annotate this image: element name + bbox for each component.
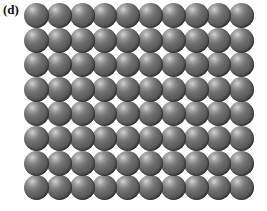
- sphere: [229, 77, 254, 102]
- sphere: [47, 77, 72, 102]
- sphere: [229, 126, 254, 151]
- sphere: [115, 77, 140, 102]
- sphere: [138, 52, 163, 77]
- sphere: [206, 151, 231, 176]
- sphere: [24, 77, 49, 102]
- sphere: [138, 101, 163, 126]
- sphere: [229, 28, 254, 53]
- sphere: [206, 175, 231, 200]
- sphere: [24, 28, 49, 53]
- sphere: [70, 101, 95, 126]
- sphere: [184, 175, 209, 200]
- sphere: [47, 3, 72, 28]
- sphere: [47, 52, 72, 77]
- sphere: [92, 28, 117, 53]
- sphere: [70, 28, 95, 53]
- sphere: [161, 126, 186, 151]
- sphere: [206, 52, 231, 77]
- figure-panel: (d): [0, 0, 267, 211]
- sphere: [24, 52, 49, 77]
- sphere: [70, 126, 95, 151]
- sphere: [161, 52, 186, 77]
- sphere: [70, 77, 95, 102]
- sphere: [229, 101, 254, 126]
- sphere: [92, 52, 117, 77]
- sphere: [206, 77, 231, 102]
- sphere: [92, 126, 117, 151]
- sphere: [115, 52, 140, 77]
- sphere: [138, 28, 163, 53]
- sphere: [161, 3, 186, 28]
- sphere: [184, 126, 209, 151]
- sphere: [47, 175, 72, 200]
- sphere: [92, 101, 117, 126]
- panel-label: (d): [3, 3, 19, 17]
- sphere: [47, 151, 72, 176]
- sphere: [184, 3, 209, 28]
- sphere: [229, 52, 254, 77]
- sphere: [229, 3, 254, 28]
- sphere: [115, 101, 140, 126]
- sphere: [47, 28, 72, 53]
- sphere: [161, 77, 186, 102]
- sphere: [70, 175, 95, 200]
- sphere: [92, 151, 117, 176]
- sphere: [206, 126, 231, 151]
- sphere: [70, 3, 95, 28]
- sphere: [184, 52, 209, 77]
- sphere: [161, 28, 186, 53]
- sphere: [138, 3, 163, 28]
- sphere: [115, 151, 140, 176]
- sphere: [229, 175, 254, 200]
- sphere: [184, 151, 209, 176]
- sphere: [184, 101, 209, 126]
- sphere: [92, 77, 117, 102]
- sphere: [161, 151, 186, 176]
- sphere: [70, 151, 95, 176]
- sphere: [115, 126, 140, 151]
- sphere: [138, 151, 163, 176]
- sphere: [70, 52, 95, 77]
- sphere: [206, 3, 231, 28]
- sphere: [47, 126, 72, 151]
- sphere: [138, 175, 163, 200]
- sphere: [138, 126, 163, 151]
- sphere: [184, 77, 209, 102]
- sphere: [161, 175, 186, 200]
- sphere: [24, 101, 49, 126]
- sphere: [92, 175, 117, 200]
- sphere: [24, 3, 49, 28]
- sphere: [24, 126, 49, 151]
- sphere: [24, 151, 49, 176]
- sphere: [115, 28, 140, 53]
- sphere: [184, 28, 209, 53]
- sphere: [138, 77, 163, 102]
- sphere: [206, 101, 231, 126]
- sphere-lattice: [24, 3, 252, 199]
- sphere: [161, 101, 186, 126]
- sphere: [92, 3, 117, 28]
- sphere: [24, 175, 49, 200]
- sphere: [47, 101, 72, 126]
- sphere: [229, 151, 254, 176]
- sphere: [115, 3, 140, 28]
- sphere: [115, 175, 140, 200]
- sphere: [206, 28, 231, 53]
